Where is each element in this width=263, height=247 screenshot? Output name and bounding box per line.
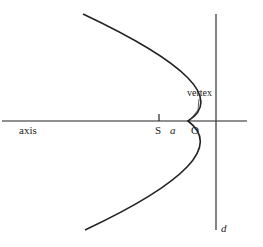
parabola-diagram: axis S a O vertex d xyxy=(0,0,263,247)
parabola-curve xyxy=(83,14,201,230)
focus-label: S xyxy=(155,124,161,136)
distance-label: a xyxy=(170,124,176,136)
directrix-label: d xyxy=(221,222,227,234)
axis-label: axis xyxy=(19,124,37,136)
vertex-label: vertex xyxy=(187,87,212,98)
origin-label: O xyxy=(191,124,199,136)
